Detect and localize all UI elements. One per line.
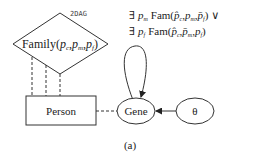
person-label: Person [46, 105, 76, 117]
family-factor-label: Family(pc,pm,pf) [22, 37, 98, 52]
theta-label: θ [192, 105, 197, 117]
figure-caption: (a) [124, 139, 137, 152]
gene-node: Gene [117, 98, 155, 124]
gene-self-loop-edge [124, 46, 146, 100]
family-person-links [32, 57, 60, 96]
gene-label: Gene [124, 105, 147, 117]
diagram-canvas: Family(pc,pm,pf) 2DAG Person Gene θ ∃pmF… [0, 0, 254, 162]
family-factor-node: Family(pc,pm,pf) [13, 13, 108, 74]
theta-node: θ [176, 98, 214, 124]
person-node: Person [26, 96, 96, 125]
constraint-line-1: ∃pmFam(p̂c,pm,p̄f) ∨ [129, 9, 219, 22]
constraint-line-2: ∃pfFam(p̂c,p̄m,pf) [129, 25, 206, 38]
plate-label-2dag: 2DAG [70, 10, 87, 18]
